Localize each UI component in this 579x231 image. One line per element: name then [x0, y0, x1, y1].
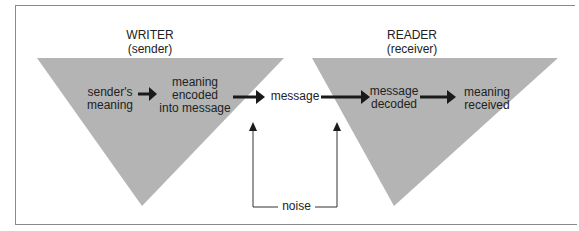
- reader-title: READER: [362, 28, 462, 42]
- step-senders-meaning: sender's meaning: [82, 86, 138, 112]
- reader-heading: READER (receiver): [362, 28, 462, 56]
- step-meaning-received: meaning received: [457, 86, 517, 112]
- step-meaning-encoded: meaning encoded into message: [155, 76, 235, 115]
- step-message-decoded: message decoded: [364, 85, 424, 111]
- reader-triangle: [312, 58, 558, 206]
- writer-title: WRITER: [100, 28, 200, 42]
- reader-subtitle: (receiver): [362, 42, 462, 56]
- communication-diagram: [0, 0, 579, 231]
- noise-arrow-right-head: [333, 122, 341, 131]
- writer-heading: WRITER (sender): [100, 28, 200, 56]
- writer-subtitle: (sender): [100, 42, 200, 56]
- noise-bracket: [249, 122, 341, 207]
- noise-arrow-left-head: [249, 122, 257, 131]
- message-label: message: [268, 90, 322, 103]
- noise-label: noise: [278, 200, 315, 213]
